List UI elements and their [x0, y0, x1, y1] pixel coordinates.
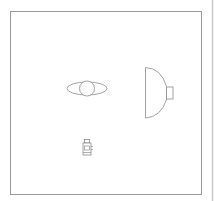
camera-body	[83, 143, 91, 155]
studio-frame	[11, 12, 202, 195]
camera-viewfinder	[85, 140, 90, 144]
subject-head	[80, 81, 95, 96]
light-head	[167, 87, 174, 99]
lighting-diagram: Studio lighting setup (top view) Subject…	[0, 0, 216, 201]
diagram-canvas: Studio lighting setup (top view) Subject…	[0, 0, 216, 201]
